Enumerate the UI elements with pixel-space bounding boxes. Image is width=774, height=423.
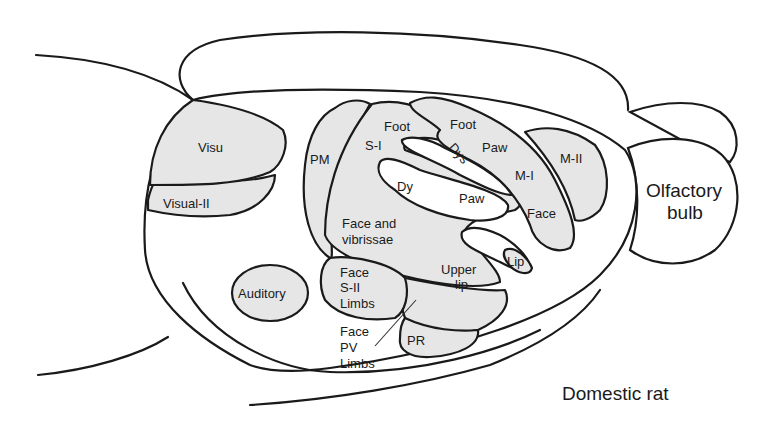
label-face-vibrissae-2: vibrissae [342, 232, 393, 247]
label-pv-3: Limbs [340, 356, 375, 371]
label-upper-lip-2: lip [455, 277, 468, 292]
brain-map-svg: Visu Visual-II Auditory PM S-I Foot Dy D… [0, 0, 774, 423]
label-lip: Lip [507, 254, 524, 269]
label-pr: PR [407, 333, 425, 348]
label-visual-ii: Visual-II [163, 196, 210, 211]
label-m-i: M-I [515, 168, 534, 183]
label-paw-mi: Paw [482, 140, 508, 155]
label-visu: Visu [198, 140, 223, 155]
label-pv-2: PV [340, 340, 358, 355]
label-sii-2: S-II [340, 280, 360, 295]
label-sii-1: Face [340, 265, 369, 280]
diagram-caption: Domestic rat [562, 383, 669, 404]
label-olfactory-1: Olfactory [646, 180, 723, 201]
label-pm: PM [310, 152, 330, 167]
label-m-ii: M-II [560, 151, 582, 166]
label-face-vibrissae-1: Face and [342, 216, 396, 231]
label-face-mi: Face [527, 206, 556, 221]
label-s-i: S-I [365, 138, 382, 153]
label-olfactory-2: bulb [667, 202, 703, 223]
brainstem-upper-line [36, 55, 193, 100]
label-pv-1: Face [340, 324, 369, 339]
label-foot-mi: Foot [450, 117, 476, 132]
label-auditory: Auditory [238, 286, 286, 301]
label-upper-lip-1: Upper [441, 262, 477, 277]
brainstem-lower-line [38, 337, 168, 375]
rat-cortex-diagram: Visu Visual-II Auditory PM S-I Foot Dy D… [0, 0, 774, 423]
label-paw-si: Paw [459, 191, 485, 206]
label-sii-3: Limbs [340, 296, 375, 311]
label-foot-si: Foot [384, 119, 410, 134]
label-dy: Dy [397, 179, 413, 194]
